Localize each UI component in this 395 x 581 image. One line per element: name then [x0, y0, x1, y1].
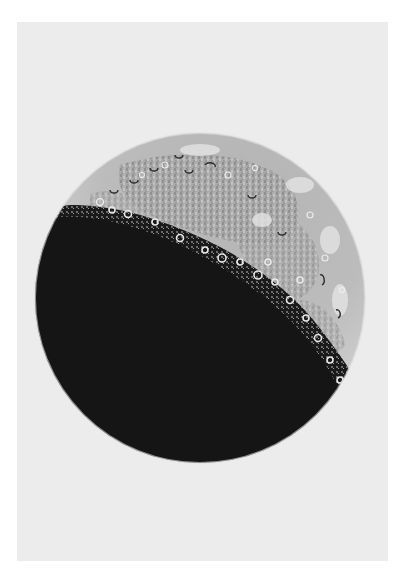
- moon-artwork: [0, 0, 395, 581]
- moon-disc: [30, 130, 370, 470]
